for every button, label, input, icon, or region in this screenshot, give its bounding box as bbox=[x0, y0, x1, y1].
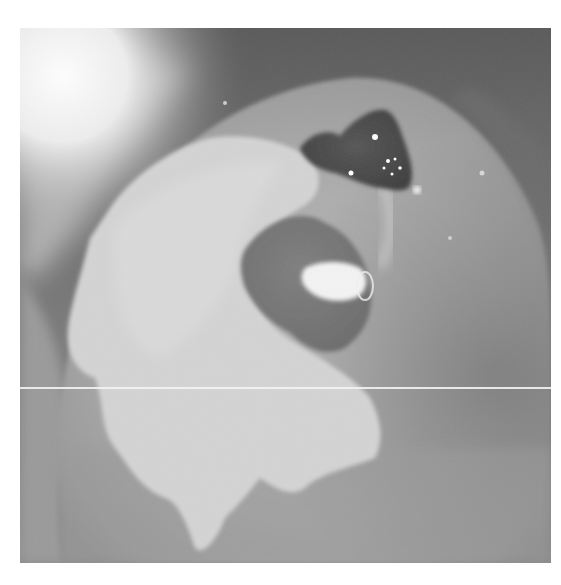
photo-scene bbox=[20, 28, 551, 563]
clinical-photograph bbox=[20, 28, 551, 563]
horizontal-scan-artifact bbox=[20, 387, 551, 389]
